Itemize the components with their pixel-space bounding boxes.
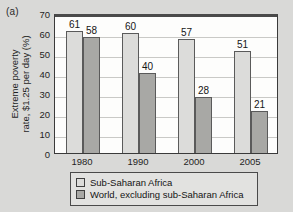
- bar-group: 6158: [55, 17, 111, 153]
- legend-item-1: World, excluding sub-Saharan Africa: [76, 189, 252, 200]
- bar: 21: [251, 111, 268, 153]
- bar-value-label: 60: [125, 21, 136, 32]
- bar: 57: [178, 39, 195, 153]
- y-tick-label: 50: [28, 49, 50, 60]
- bar-value-label: 21: [254, 99, 265, 110]
- bar: 60: [122, 33, 139, 153]
- bar: 61: [66, 31, 83, 153]
- bar: 40: [139, 73, 156, 153]
- x-tick-label: 2000: [183, 156, 204, 167]
- legend-label-sub-saharan-africa: Sub-Saharan Africa: [90, 177, 172, 188]
- bar-group: 5728: [167, 17, 223, 153]
- bar-groups: 6158604057285121: [55, 17, 277, 153]
- bar-value-label: 61: [69, 19, 80, 30]
- bar: 51: [234, 51, 251, 153]
- bar-value-label: 57: [181, 27, 192, 38]
- legend: Sub-Saharan Africa World, excluding sub-…: [70, 172, 258, 206]
- x-axis-tick-labels: 1980199020002005: [54, 156, 278, 170]
- x-tick-label: 2005: [239, 156, 260, 167]
- figure: (a) Extreme poverty rate, $1.25 per day …: [0, 0, 293, 212]
- y-tick-label: 10: [28, 129, 50, 140]
- bar: 58: [83, 37, 100, 153]
- bar-group: 6040: [111, 17, 167, 153]
- y-tick-label: 30: [28, 89, 50, 100]
- y-tick-label: 60: [28, 29, 50, 40]
- plot-area: 6158604057285121: [54, 14, 278, 154]
- x-tick-label: 1980: [71, 156, 92, 167]
- y-axis-title-line1: Extreme poverty: [9, 12, 20, 156]
- bar-value-label: 58: [86, 25, 97, 36]
- y-axis-tick-labels: 010203040506070: [26, 14, 50, 154]
- legend-item-0: Sub-Saharan Africa: [76, 177, 252, 188]
- x-tick-label: 1990: [127, 156, 148, 167]
- legend-label-world-excluding-sub-saharan-africa: World, excluding sub-Saharan Africa: [90, 189, 244, 200]
- y-tick-label: 0: [28, 149, 50, 160]
- bar-value-label: 40: [142, 61, 153, 72]
- legend-swatch-world-excluding-sub-saharan-africa: [76, 190, 85, 199]
- bar-value-label: 28: [198, 85, 209, 96]
- y-tick-label: 40: [28, 69, 50, 80]
- bar-value-label: 51: [237, 39, 248, 50]
- bar-group: 5121: [223, 17, 279, 153]
- y-tick-label: 20: [28, 109, 50, 120]
- legend-swatch-sub-saharan-africa: [76, 178, 85, 187]
- y-tick-label: 70: [28, 9, 50, 20]
- y-axis-title: Extreme poverty rate, $1.25 per day (%): [0, 8, 26, 158]
- bar: 28: [195, 97, 212, 153]
